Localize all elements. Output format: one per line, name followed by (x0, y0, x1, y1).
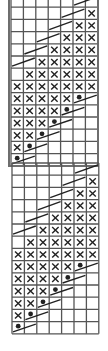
cross-stitch-icon (89, 215, 95, 221)
cross-stitch-icon (77, 215, 83, 221)
cross-stitch-icon (65, 251, 71, 257)
cross-stitch-icon (40, 239, 46, 245)
cross-stitch-icon (77, 203, 83, 209)
cross-stitch-icon (65, 203, 71, 209)
cross-stitch-icon (65, 215, 71, 221)
cross-stitch-icon (89, 239, 95, 245)
cross-stitch-icon (89, 203, 95, 209)
cross-stitch-icon (52, 264, 58, 270)
cross-stitch-icon (40, 227, 46, 233)
cross-stitch-icon (65, 264, 71, 270)
cross-stitch-icon (27, 264, 33, 270)
cross-stitch-icon (15, 276, 21, 282)
cross-stitch-icon (89, 178, 95, 184)
chart-section-repeat-lower (11, 162, 98, 333)
cross-stitch-icon (40, 276, 46, 282)
grid-svg (11, 162, 100, 335)
cross-stitch-icon (27, 288, 33, 294)
cross-stitch-icon (15, 300, 21, 306)
cross-stitch-icon (15, 264, 21, 270)
cross-stitch-icon (52, 276, 58, 282)
section-frame (8, 0, 99, 167)
cross-stitch-icon (27, 239, 33, 245)
cross-stitch-icon (52, 215, 58, 221)
cross-stitch-icon (52, 239, 58, 245)
cross-stitch-icon (77, 239, 83, 245)
cross-stitch-icon (15, 288, 21, 294)
cross-stitch-icon (15, 251, 21, 257)
cross-stitch-icon (27, 300, 33, 306)
cross-stitch-icon (15, 312, 21, 318)
cross-stitch-icon (40, 288, 46, 294)
cross-stitch-icon (27, 251, 33, 257)
cross-stitch-icon (52, 251, 58, 257)
chart-section-repeat-framed (10, 0, 97, 165)
cross-stitch-icon (77, 251, 83, 257)
cross-stitch-icon (52, 227, 58, 233)
cross-stitch-icon (89, 251, 95, 257)
cross-stitch-icon (89, 190, 95, 196)
cross-stitch-icon (27, 276, 33, 282)
cross-stitch-icon (40, 264, 46, 270)
cross-stitch-icon (89, 227, 95, 233)
cross-stitch-icon (40, 251, 46, 257)
cross-stitch-icon (77, 227, 83, 233)
cross-stitch-icon (65, 227, 71, 233)
cross-stitch-icon (65, 239, 71, 245)
cross-stitch-icon (77, 190, 83, 196)
